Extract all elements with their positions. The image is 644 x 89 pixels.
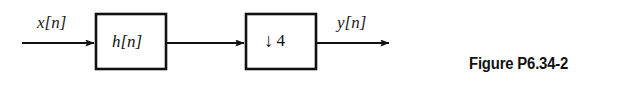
filter-block-label: h[n] [112, 33, 142, 50]
downsampler-block-label: ↓4 [264, 31, 285, 50]
output-signal-label: y[n] [337, 14, 366, 31]
figure-caption: Figure P6.34-2 [469, 55, 568, 73]
input-signal-label: x[n] [37, 14, 66, 31]
down-arrow-icon: ↓ [264, 31, 274, 50]
figure-container: x[n] y[n] h[n] ↓4 Figure P6.34-2 [0, 0, 644, 89]
downsample-factor: 4 [277, 31, 286, 50]
